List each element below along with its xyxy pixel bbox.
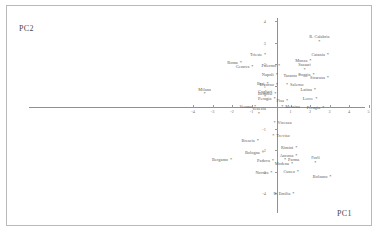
star-marker-icon: * <box>273 97 276 100</box>
x-tick <box>349 105 350 108</box>
point-label: Napoli <box>262 72 274 77</box>
point-label: R. Calabria <box>309 34 329 39</box>
point-label: Forlì <box>311 155 320 160</box>
point-label: Bolzano <box>313 174 328 179</box>
point-label: Messina <box>285 104 300 109</box>
star-marker-icon: * <box>309 59 312 62</box>
x-tick <box>213 105 214 108</box>
star-marker-icon: * <box>296 170 299 173</box>
x-tick <box>193 105 194 108</box>
point-label: Brescia <box>242 138 255 143</box>
star-marker-icon: * <box>274 92 277 95</box>
star-marker-icon: * <box>295 146 298 149</box>
star-marker-icon: * <box>314 161 317 164</box>
y-tick-label: -4 <box>262 191 266 196</box>
point-label: Perugia <box>307 105 320 110</box>
star-marker-icon: * <box>322 106 325 109</box>
star-marker-icon: * <box>257 112 260 115</box>
point-label: Verona <box>240 104 252 109</box>
x-tick <box>369 105 370 108</box>
point-label: Palermo <box>262 63 277 68</box>
point-label: Perugia <box>258 96 271 101</box>
x-tick-label: 1 <box>289 109 291 114</box>
star-marker-icon: * <box>298 74 301 77</box>
point-label: Parma <box>288 157 299 162</box>
point-label: Trieste <box>250 52 262 57</box>
point-label: Catania <box>311 52 324 57</box>
x-tick-label: -3 <box>211 109 215 114</box>
star-marker-icon: * <box>256 139 259 142</box>
point-label: Pisa <box>277 98 284 103</box>
x-tick-label: -2 <box>230 109 234 114</box>
point-label: Taranto <box>283 73 296 78</box>
star-marker-icon: * <box>281 105 284 108</box>
point-label: R. Emilia <box>274 191 291 196</box>
x-tick-label: 5 <box>367 109 369 114</box>
point-label: Bologna <box>245 150 260 155</box>
y-tick <box>275 43 278 44</box>
y-tick-label: 4 <box>264 19 266 24</box>
y-tick-label: -1 <box>262 126 266 131</box>
x-tick-label: -4 <box>191 109 195 114</box>
plot-frame: PC2 PC1 -4-3-2-112345-4-3-2-11234 *Milan… <box>6 5 372 226</box>
point-label: Bergamo <box>212 157 228 162</box>
point-label: Rimini <box>281 145 293 150</box>
x-tick <box>232 105 233 108</box>
x-axis-title: PC1 <box>337 209 352 218</box>
y-axis-title: PC2 <box>19 24 34 33</box>
star-marker-icon: * <box>315 97 318 100</box>
x-tick <box>330 105 331 108</box>
star-marker-icon: * <box>261 151 264 154</box>
scatter-plot-figure: PC2 PC1 -4-3-2-112345-4-3-2-11234 *Milan… <box>0 0 378 231</box>
point-label: Modena <box>275 161 289 166</box>
star-marker-icon: * <box>264 53 267 56</box>
star-marker-icon: * <box>278 64 281 67</box>
point-label: Genova <box>236 64 250 69</box>
star-marker-icon: * <box>270 171 273 174</box>
point-label: Siracusa <box>310 75 325 80</box>
point-label: Padova <box>257 158 270 163</box>
star-marker-icon: * <box>295 154 298 157</box>
star-marker-icon: * <box>292 192 295 195</box>
point-label: Livorno <box>260 82 274 87</box>
star-marker-icon: * <box>275 83 278 86</box>
star-marker-icon: * <box>326 76 329 79</box>
y-tick <box>275 129 278 130</box>
star-marker-icon: * <box>326 53 329 56</box>
point-label: Treviso <box>276 133 289 138</box>
point-label: Novara <box>255 170 268 175</box>
point-label: Sassari <box>298 62 311 67</box>
point-label: Latina <box>301 87 312 92</box>
star-marker-icon: * <box>303 68 306 71</box>
point-label: Ancona <box>280 153 294 158</box>
star-marker-icon: * <box>275 73 278 76</box>
star-marker-icon: * <box>251 65 254 68</box>
y-tick <box>275 172 278 173</box>
y-tick <box>275 150 278 151</box>
point-label: Venezia <box>252 106 266 111</box>
star-marker-icon: * <box>272 134 275 137</box>
point-label: Vicenza <box>278 120 292 125</box>
point-label: Cuneo <box>283 169 294 174</box>
star-marker-icon: * <box>313 88 316 91</box>
star-marker-icon: * <box>285 99 288 102</box>
star-marker-icon: * <box>229 158 232 161</box>
point-label: Monza <box>295 58 307 63</box>
star-marker-icon: * <box>285 83 288 86</box>
star-marker-icon: * <box>290 162 293 165</box>
y-tick <box>275 21 278 22</box>
point-label: Lecce <box>303 96 314 101</box>
star-marker-icon: * <box>273 121 276 124</box>
y-axis-line <box>277 18 278 213</box>
x-tick-label: 4 <box>348 109 350 114</box>
y-tick-label: 3 <box>264 40 266 45</box>
star-marker-icon: * <box>329 175 332 178</box>
x-tick-label: 3 <box>328 109 330 114</box>
star-marker-icon: * <box>318 40 321 43</box>
point-label: Milano <box>198 87 211 92</box>
star-marker-icon: * <box>203 92 206 95</box>
